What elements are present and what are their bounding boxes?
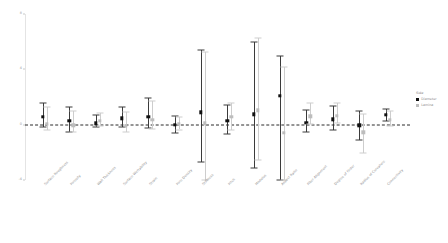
legend-entry[interactable]: Lamina xyxy=(416,104,448,107)
error-bar-line xyxy=(284,67,285,180)
error-bar-cap xyxy=(92,127,99,128)
data-point-marker[interactable] xyxy=(124,124,127,127)
error-bar-cap xyxy=(307,123,314,124)
error-bar-cap xyxy=(96,112,103,113)
y-axis-spine xyxy=(25,14,26,180)
error-bar-cap xyxy=(386,126,393,127)
error-bar-line xyxy=(205,52,206,180)
data-point-marker[interactable] xyxy=(362,131,365,134)
error-bar-cap xyxy=(250,41,257,42)
error-bar-cap xyxy=(175,117,182,118)
data-point-marker[interactable] xyxy=(335,114,338,117)
data-point-marker[interactable] xyxy=(120,117,123,120)
y-axis-tick xyxy=(23,69,25,70)
error-bar-line xyxy=(152,101,153,129)
data-point-marker[interactable] xyxy=(226,119,229,122)
error-bar-cap xyxy=(382,108,389,109)
error-bar-cap xyxy=(281,66,288,67)
legend-entry-label: Lamina xyxy=(421,104,433,107)
error-bar-cap xyxy=(254,159,261,160)
data-point-marker[interactable] xyxy=(41,115,44,118)
error-bar-cap xyxy=(96,126,103,127)
y-axis-tick-label: 8 xyxy=(20,12,22,15)
error-bar-cap xyxy=(360,114,367,115)
error-bar-cap xyxy=(66,107,73,108)
data-point-marker[interactable] xyxy=(177,122,180,125)
data-point-marker[interactable] xyxy=(67,119,70,122)
error-bar-cap xyxy=(333,103,340,104)
y-axis-tick-label: 0 xyxy=(20,123,22,126)
error-bar-line xyxy=(201,50,202,162)
error-bar-cap xyxy=(254,37,261,38)
error-bar-line xyxy=(126,112,127,132)
error-bar-cap xyxy=(386,110,393,111)
data-point-marker[interactable] xyxy=(203,122,206,125)
error-bar-cap xyxy=(303,110,310,111)
error-bar-cap xyxy=(70,132,77,133)
error-bar-line xyxy=(47,107,48,129)
data-point-marker[interactable] xyxy=(331,117,334,120)
legend-title: Side xyxy=(416,92,448,95)
error-bar-cap xyxy=(228,102,235,103)
data-point-marker[interactable] xyxy=(98,119,101,122)
error-bar-cap xyxy=(145,98,152,99)
legend-marker-icon xyxy=(416,104,419,107)
zero-reference-line xyxy=(25,124,410,125)
error-bar-cap xyxy=(149,128,156,129)
data-point-marker[interactable] xyxy=(151,118,154,121)
error-bar-cap xyxy=(197,49,204,50)
data-point-marker[interactable] xyxy=(384,113,387,116)
data-point-marker[interactable] xyxy=(199,111,202,114)
error-bar-cap xyxy=(329,105,336,106)
plot-area: 840-4 xyxy=(25,14,410,180)
error-bar-cap xyxy=(43,129,50,130)
error-bar-cap xyxy=(43,107,50,108)
error-bar-cap xyxy=(277,55,284,56)
error-bar-cap xyxy=(307,103,314,104)
legend-marker-icon xyxy=(416,98,419,101)
y-axis-tick-label: -4 xyxy=(19,178,22,181)
y-axis-tick xyxy=(23,14,25,15)
data-point-marker[interactable] xyxy=(309,115,312,118)
legend-entry-group: DiameterLamina xyxy=(416,98,448,107)
error-bar-cap xyxy=(70,110,77,111)
x-axis-label: Pitch xyxy=(228,178,236,186)
error-bar-cap xyxy=(149,101,156,102)
error-bar-cap xyxy=(171,132,178,133)
error-bar-cap xyxy=(303,132,310,133)
data-point-marker[interactable] xyxy=(252,113,255,116)
legend-entry[interactable]: Diameter xyxy=(416,98,448,101)
data-point-marker[interactable] xyxy=(282,131,285,134)
error-bar-cap xyxy=(228,129,235,130)
data-point-marker[interactable] xyxy=(388,118,391,121)
error-bar-line xyxy=(310,103,311,124)
error-bar-cap xyxy=(224,134,231,135)
error-bar-cap xyxy=(360,153,367,154)
error-bar-cap xyxy=(250,167,257,168)
chart-legend: Side DiameterLamina xyxy=(416,92,448,109)
data-point-marker[interactable] xyxy=(94,122,97,125)
error-bar-cap xyxy=(333,123,340,124)
data-point-marker[interactable] xyxy=(173,123,176,126)
data-point-marker[interactable] xyxy=(71,124,74,127)
data-point-marker[interactable] xyxy=(358,124,361,127)
y-axis-tick xyxy=(23,180,25,181)
error-bar-line xyxy=(254,42,255,168)
error-bar-cap xyxy=(356,110,363,111)
chart-canvas: 840-4 Surface RoughnessPorosityWall Thic… xyxy=(0,0,448,243)
data-point-marker[interactable] xyxy=(278,94,281,97)
data-point-marker[interactable] xyxy=(45,122,48,125)
error-bar-cap xyxy=(122,112,129,113)
error-bar-cap xyxy=(122,132,129,133)
data-point-marker[interactable] xyxy=(256,108,259,111)
error-bar-cap xyxy=(118,106,125,107)
error-bar-line xyxy=(258,38,259,160)
error-bar-cap xyxy=(356,139,363,140)
data-point-marker[interactable] xyxy=(230,115,233,118)
error-bar-cap xyxy=(39,103,46,104)
data-point-marker[interactable] xyxy=(147,115,150,118)
legend-entry-label: Diameter xyxy=(421,98,436,101)
error-bar-cap xyxy=(224,105,231,106)
error-bar-cap xyxy=(201,52,208,53)
error-bar-cap xyxy=(329,129,336,130)
